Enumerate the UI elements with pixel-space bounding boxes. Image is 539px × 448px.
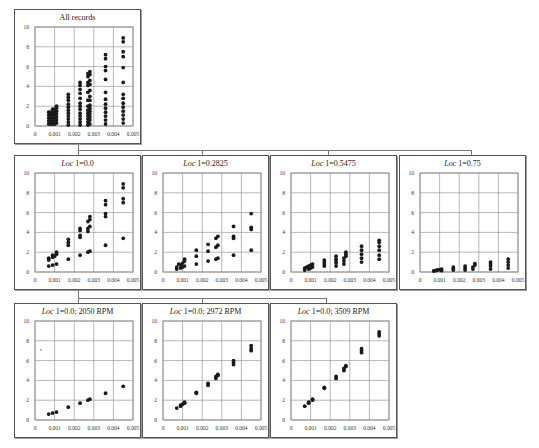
data-point [249,248,253,252]
data-point [344,250,348,254]
y-tick-label: 6 [282,210,285,216]
x-tick-label: 0.002 [324,425,337,431]
scatter-plot: 00.0010.0020.0030.0040.0050246810 [143,304,270,439]
data-point [88,70,92,74]
data-point [88,225,92,229]
data-point [47,256,51,260]
data-point [78,233,82,237]
y-tick-label: 4 [154,377,157,383]
data-point [55,250,59,254]
y-tick-label: 10 [24,24,30,30]
y-tick-label: 6 [26,210,29,216]
y-tick-label: 6 [154,210,157,216]
scatter-plot: 00.0010.0020.0030.0040.0050246810 [271,156,398,291]
y-tick-label: 0 [26,269,29,275]
data-point [51,263,55,267]
x-tick-label: 0.002 [453,277,466,283]
data-point [451,265,455,269]
y-tick-label: 6 [282,358,285,364]
data-point [121,197,125,201]
y-tick-label: 4 [154,229,157,235]
data-point [216,256,220,260]
y-tick-label: 6 [154,358,157,364]
x-tick-label: 0.005 [127,131,140,137]
x-tick-label: 0.002 [196,425,209,431]
y-tick-label: 0 [26,417,29,423]
data-point [66,405,70,409]
y-tick-label: 10 [280,170,286,176]
scatter-plot: 00.0010.0020.0030.0040.0050246810r [15,304,142,439]
x-tick-label: 0.005 [127,277,140,283]
y-tick-label: 4 [282,377,285,383]
data-point [88,79,92,83]
data-point [104,106,108,110]
data-point [175,406,179,410]
data-point [249,226,253,230]
data-point [206,249,210,253]
y-tick-label: 8 [411,190,414,196]
x-tick-label: 0.001 [433,277,446,283]
data-point [121,117,125,121]
plot-frame [163,173,261,272]
data-point [88,94,92,98]
data-point [232,225,236,229]
data-point [104,69,108,73]
y-tick-label: 0 [26,123,29,129]
x-tick-label: 0.002 [68,277,81,283]
x-tick-label: 0.004 [107,131,120,137]
y-tick-label: 4 [411,229,414,235]
data-point [506,257,510,261]
data-point [66,92,70,96]
x-tick-label: 0 [419,277,422,283]
data-point [78,253,82,257]
data-point [194,390,198,394]
panel-loc-0-2825: Loc 1=0.2825 00.0010.0020.0030.0040.0050… [142,155,269,290]
x-tick-label: 0.003 [216,277,229,283]
panel-loc-0-3509rpm: Loc 1=0.0; 3509 RPM 00.0010.0020.0030.00… [270,303,397,438]
x-tick-label: 0.001 [176,425,189,431]
x-tick-label: 0.005 [255,425,268,431]
panel-loc-0-5475: Loc 1=0.5475 00.0010.0020.0030.0040.0050… [270,155,397,290]
y-tick-label: 8 [282,190,285,196]
panel-all-records: All records 00.0010.0020.0030.0040.00502… [14,9,141,144]
data-point [104,97,108,101]
data-point [104,110,108,114]
x-tick-label: 0.003 [344,425,357,431]
data-point [216,243,220,247]
y-tick-label: 2 [26,103,29,109]
y-tick-label: 0 [154,417,157,423]
data-point [121,92,125,96]
data-point [463,264,467,268]
data-point [104,243,108,247]
y-tick-label: 10 [152,318,158,324]
y-tick-label: 2 [26,249,29,255]
data-point [121,113,125,117]
data-point [78,401,82,405]
data-point [206,259,210,263]
x-tick-label: 0.004 [363,277,376,283]
data-point [104,391,108,395]
scatter-plot: 00.0010.0020.0030.0040.0050246810 [400,156,527,291]
data-point [121,121,125,125]
y-tick-label: 8 [26,44,29,50]
x-tick-label: 0.001 [304,425,317,431]
scatter-plot: 00.0010.0020.0030.0040.0050246810 [271,304,398,439]
y-tick-label: 2 [282,397,285,403]
x-tick-label: 0.003 [216,425,229,431]
data-point [183,400,187,404]
data-point [360,256,364,260]
data-point [104,212,108,216]
data-point [473,262,477,266]
data-point [216,373,220,377]
data-point [55,262,59,266]
data-point [66,257,70,261]
data-point [104,90,108,94]
data-point [232,359,236,363]
x-tick-label: 0.005 [383,277,396,283]
data-point [51,411,55,415]
data-point [88,397,92,401]
data-point [47,412,51,416]
y-tick-label: 0 [282,417,285,423]
data-point [360,252,364,256]
y-tick-label: 10 [24,170,30,176]
